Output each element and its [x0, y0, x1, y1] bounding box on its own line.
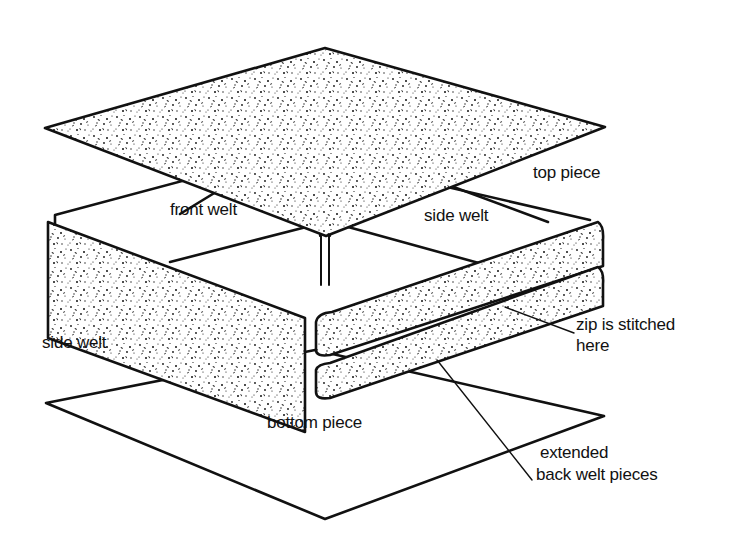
- inner-floor-edge-left: [170, 224, 318, 262]
- label-bottom-piece: bottom piece: [267, 413, 362, 432]
- label-side-welt-left: side welt: [42, 333, 106, 352]
- inner-floor-edge-right: [330, 222, 486, 265]
- label-side-welt-right: side welt: [424, 206, 488, 225]
- label-extended-line2: back welt pieces: [536, 465, 658, 484]
- label-extended-line1: extended: [540, 443, 608, 462]
- top-piece: [45, 48, 605, 236]
- label-top-piece: top piece: [533, 163, 600, 182]
- label-front-welt: front welt: [170, 200, 237, 219]
- label-zip-line2: here: [576, 336, 609, 355]
- label-zip-line1: zip is stitched: [576, 315, 675, 334]
